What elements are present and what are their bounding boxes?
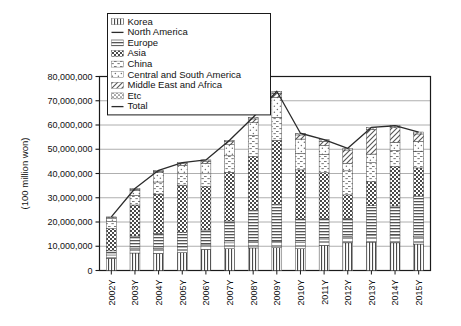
bar-segment bbox=[106, 229, 116, 251]
y-tick-label: 50,000,000 bbox=[47, 144, 92, 154]
bar-segment bbox=[225, 221, 235, 243]
bar-segment bbox=[390, 236, 400, 243]
legend-label: Central and South America bbox=[128, 69, 242, 80]
bar-segment bbox=[248, 248, 258, 271]
bar-segment bbox=[343, 236, 353, 243]
chart-container: 010,000,00020,000,00030,000,00040,000,00… bbox=[0, 0, 461, 326]
bar-segment bbox=[319, 154, 329, 172]
bar-segment bbox=[225, 243, 235, 249]
legend-label: North America bbox=[128, 26, 189, 37]
bar-segment bbox=[390, 128, 400, 143]
bar-segment bbox=[248, 136, 258, 157]
chart-legend: KoreaNorth AmericaEuropeAsiaChinaCentral… bbox=[108, 14, 271, 115]
x-tick-label: 2010Y bbox=[296, 280, 306, 306]
bar-segment bbox=[154, 233, 164, 248]
bar-segment bbox=[414, 168, 424, 196]
x-tick-label: 2013Y bbox=[367, 280, 377, 306]
bar-segment bbox=[319, 219, 329, 239]
y-tick-label: 30,000,000 bbox=[47, 193, 92, 203]
legend-label: Europe bbox=[128, 37, 159, 48]
bar-segment bbox=[154, 182, 164, 194]
bar-segment bbox=[366, 182, 376, 206]
bar-segment bbox=[130, 195, 140, 205]
legend-label: Middle East and Africa bbox=[128, 79, 223, 90]
x-tick-label: 2009Y bbox=[272, 280, 282, 306]
bar-segment bbox=[295, 139, 305, 153]
bar-segment bbox=[177, 247, 187, 253]
bar-segment bbox=[343, 150, 353, 163]
x-tick-label: 2003Y bbox=[130, 280, 140, 306]
bar-segment bbox=[106, 222, 116, 229]
bar-segment bbox=[106, 251, 116, 255]
y-tick-label: 60,000,000 bbox=[47, 120, 92, 130]
bar-segment bbox=[177, 165, 187, 173]
bar-segment bbox=[225, 156, 235, 172]
legend-swatch bbox=[112, 19, 124, 25]
bar-segment bbox=[319, 141, 329, 145]
y-tick-label: 0 bbox=[87, 266, 92, 276]
y-tick-label: 80,000,000 bbox=[47, 72, 92, 82]
bar-segment bbox=[414, 134, 424, 141]
bar-segment bbox=[366, 163, 376, 182]
bar-segment bbox=[177, 185, 187, 233]
bar-segment bbox=[201, 161, 211, 163]
bar-segment bbox=[272, 248, 282, 271]
legend-swatch bbox=[112, 82, 124, 88]
bar-segment bbox=[130, 205, 140, 236]
bar-segment bbox=[295, 153, 305, 169]
legend-swatch bbox=[112, 72, 124, 78]
bar-segment bbox=[130, 236, 140, 249]
bar-segment bbox=[106, 218, 116, 221]
bar-segment bbox=[343, 195, 353, 219]
x-tick-label: 2006Y bbox=[201, 280, 211, 306]
bar-segment bbox=[414, 244, 424, 270]
y-tick-label: 20,000,000 bbox=[47, 217, 92, 227]
bar-segment bbox=[130, 249, 140, 253]
x-tick-label: 2008Y bbox=[249, 280, 259, 306]
bar-segment bbox=[225, 145, 235, 156]
x-tick-label: 2015Y bbox=[414, 280, 424, 306]
bar-segment bbox=[319, 173, 329, 219]
bar-segment bbox=[414, 196, 424, 237]
legend-label: Korea bbox=[128, 16, 154, 27]
bar-segment bbox=[390, 206, 400, 236]
bar-segment bbox=[390, 243, 400, 271]
bar-segment bbox=[106, 217, 116, 218]
bar-segment bbox=[343, 243, 353, 271]
bar-segment bbox=[390, 142, 400, 150]
bar-segment bbox=[272, 241, 282, 247]
x-tick-label: 2014Y bbox=[390, 280, 400, 306]
bar-segment bbox=[366, 129, 376, 154]
bar-segment bbox=[366, 206, 376, 235]
bar-segment bbox=[295, 249, 305, 271]
bar-segment bbox=[295, 135, 305, 139]
bar-segment bbox=[177, 174, 187, 185]
bar-segment bbox=[343, 219, 353, 237]
bar-segment bbox=[154, 194, 164, 233]
bar-segment bbox=[272, 117, 282, 140]
y-axis-ticks: 010,000,00020,000,00030,000,00040,000,00… bbox=[47, 72, 99, 276]
bar-segment bbox=[154, 254, 164, 271]
stacked-bar-chart: 010,000,00020,000,00030,000,00040,000,00… bbox=[0, 0, 461, 326]
bar-segment bbox=[154, 173, 164, 182]
bar-segment bbox=[272, 140, 282, 204]
bar-segment bbox=[414, 132, 424, 134]
bar-segment bbox=[319, 145, 329, 154]
bar-segment bbox=[319, 239, 329, 245]
legend-label: China bbox=[128, 58, 154, 69]
bar-segment bbox=[201, 230, 211, 244]
bar-segment bbox=[201, 163, 211, 173]
bar-segment bbox=[177, 233, 187, 247]
bar-segment bbox=[366, 154, 376, 162]
bar-segment bbox=[248, 242, 258, 248]
x-tick-label: 2004Y bbox=[154, 280, 164, 306]
bar-segment bbox=[272, 205, 282, 242]
bar-segment bbox=[295, 243, 305, 249]
bar-segment bbox=[390, 150, 400, 166]
bar-segment bbox=[414, 237, 424, 244]
bar-segment bbox=[177, 253, 187, 271]
bar-segment bbox=[248, 157, 258, 211]
y-tick-label: 40,000,000 bbox=[47, 169, 92, 179]
x-tick-label: 2012Y bbox=[343, 280, 353, 306]
bar-segment bbox=[414, 151, 424, 168]
